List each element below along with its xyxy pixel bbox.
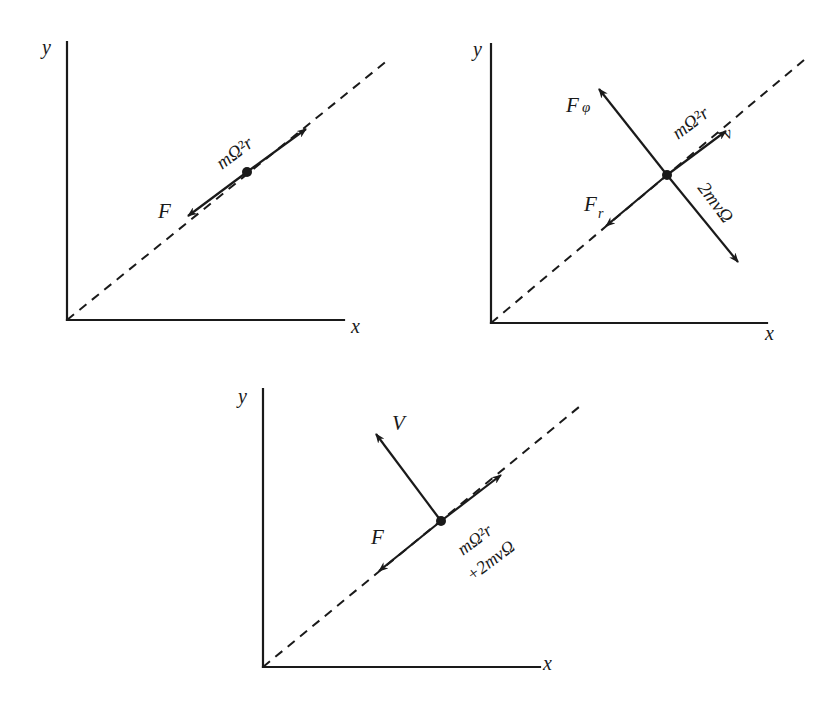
force-f-label: F [370,525,384,549]
radial-force-subscript: r [598,206,604,221]
rotating-frame-force-diagram: y x F mΩ²r y x F φ F r mΩ²r v 2mvΩ y x V [0,0,833,704]
x-axis-label: x [542,652,552,674]
velocity-v-label: V [392,411,407,435]
azimuthal-force-label: F [565,93,579,117]
coriolis-force-label: 2mvΩ [694,178,738,227]
y-axis-label: y [236,385,247,408]
velocity-v-arrow [376,434,441,521]
panel-3-particle-forces: y x V F mΩ²r +2mvΩ [236,385,579,674]
azimuthal-force-arrow [599,89,667,175]
force-f-arrow [188,172,247,216]
centrifugal-force-arrow [247,129,306,172]
combined-force-arrow [441,475,501,521]
y-axis-label: y [40,36,51,59]
radial-force-label: F [583,192,597,216]
particle-dot [436,516,446,526]
centrifugal-force-label: mΩ²r [212,132,258,174]
azimuthal-force-subscript: φ [582,99,590,115]
velocity-v-label: v [720,123,736,143]
particle-dot [242,167,252,177]
radial-dashed-line [67,60,388,320]
force-f-label: F [157,199,171,223]
y-axis-label: y [471,38,482,61]
panel-2-particle-forces: y x F φ F r mΩ²r v 2mvΩ [471,38,804,344]
x-axis-label: x [764,322,774,344]
centrifugal-force-label: mΩ²r [668,102,714,144]
x-axis-label: x [350,315,360,337]
panel-1-particle-forces: y x F mΩ²r [40,36,388,337]
radial-force-arrow [606,175,667,226]
force-f-arrow [379,521,441,571]
particle-dot [662,170,672,180]
